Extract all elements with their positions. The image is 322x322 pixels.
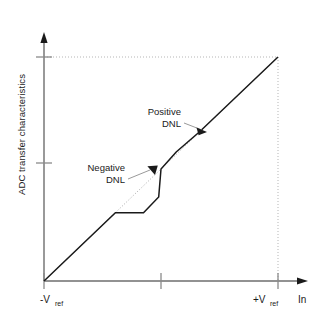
actual-transfer-curve [44,57,278,281]
positive-dnl-label-line1: Positive [148,106,181,117]
y-axis-arrowhead [40,32,47,43]
adc-dnl-figure: ADC transfer characteristics Positive DN… [0,0,322,322]
negative-dnl-label-line1: Negative [88,162,126,173]
x-label-neg-vref-subscript: ref [55,300,63,307]
x-label-pos-vref-subscript: ref [270,300,278,307]
x-axis-arrowhead [297,277,308,284]
plot-canvas: Positive DNL Negative DNL -V ref +V ref … [0,0,322,322]
negative-dnl-label-line2: DNL [106,174,125,185]
positive-dnl-label-line2: DNL [162,118,181,129]
negative-dnl-leader-line [128,170,150,179]
x-label-neg-vref-main: -V [40,294,50,305]
x-axis-label: In [298,294,306,305]
x-label-pos-vref-main: +V [253,294,266,305]
